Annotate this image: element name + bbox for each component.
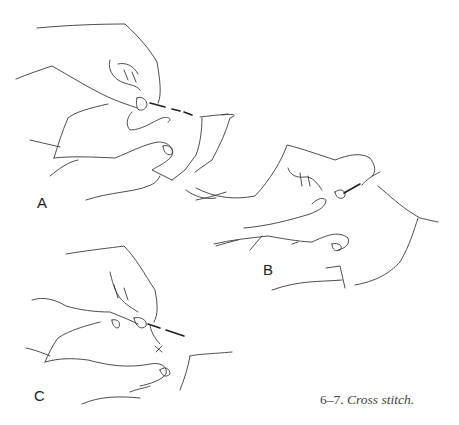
line-drawing [0,0,459,425]
panel-label-c: C [34,388,45,403]
caption-title: Cross stitch. [347,392,414,407]
panel-label-a: A [37,195,47,210]
figure-caption: 6–7. Cross stitch. [320,392,414,408]
panel-a-drawing [16,24,228,200]
panel-c-drawing [26,240,238,404]
caption-number: 6–7. [320,392,344,407]
cross-stitch-illustration: A B C 6–7. Cross stitch. [0,0,459,425]
panel-label-b: B [263,262,273,277]
panel-b-drawing [195,114,438,290]
